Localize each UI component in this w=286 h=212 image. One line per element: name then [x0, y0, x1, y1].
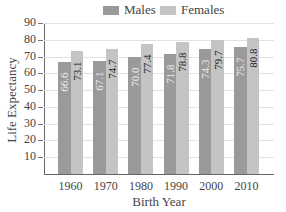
y-tick — [38, 90, 43, 91]
legend-label-females: Females — [181, 2, 224, 18]
males-swatch — [103, 6, 119, 15]
bar-females-1980: 77.4 — [141, 44, 154, 174]
y-tick — [38, 23, 43, 24]
y-tick — [38, 40, 43, 41]
bar-value-label: 75.7 — [234, 57, 246, 76]
y-tick-label: 80 — [14, 32, 36, 47]
bar-males-1990: 71.8 — [164, 54, 177, 174]
bar-males-1980: 70.0 — [128, 57, 141, 174]
gridline — [44, 40, 274, 41]
bar-females-1970: 74.7 — [106, 49, 119, 174]
x-tick-label: 2010 — [229, 179, 265, 194]
bar-value-label: 78.8 — [176, 52, 188, 71]
bar-value-label: 73.1 — [71, 62, 83, 81]
y-axis — [44, 23, 45, 174]
x-axis — [44, 174, 274, 175]
x-tick-label: 2000 — [193, 179, 229, 194]
y-tick — [38, 107, 43, 108]
bar-males-1970: 67.1 — [93, 61, 106, 174]
y-tick — [38, 73, 43, 74]
y-tick-label: 40 — [14, 99, 36, 114]
bar-value-label: 67.1 — [93, 72, 105, 91]
bar-males-2010: 75.7 — [234, 47, 247, 174]
bar-females-2000: 79.7 — [211, 40, 224, 174]
bar-value-label: 80.8 — [247, 49, 259, 68]
y-tick-label: 70 — [14, 49, 36, 64]
bar-females-1990: 78.8 — [176, 42, 189, 174]
x-tick-label: 1960 — [53, 179, 89, 194]
x-tick-label: 1990 — [158, 179, 194, 194]
legend: Males Females — [0, 3, 286, 17]
bar-value-label: 79.7 — [212, 51, 224, 70]
y-tick — [38, 124, 43, 125]
y-tick-label: 90 — [14, 15, 36, 30]
y-tick-label: 10 — [14, 149, 36, 164]
y-tick — [38, 57, 43, 58]
bar-value-label: 77.4 — [141, 55, 153, 74]
x-axis-title: Birth Year — [44, 194, 274, 210]
x-tick-label: 1980 — [123, 179, 159, 194]
legend-label-males: Males — [124, 2, 156, 18]
bar-value-label: 74.3 — [199, 60, 211, 79]
y-tick-label: 50 — [14, 82, 36, 97]
y-tick-label: 30 — [14, 116, 36, 131]
females-swatch — [160, 6, 176, 15]
legend-item-females: Females — [160, 3, 224, 17]
bar-males-2000: 74.3 — [199, 49, 212, 174]
bar-males-1960: 66.6 — [58, 62, 71, 174]
legend-item-males: Males — [103, 3, 156, 17]
bar-value-label: 74.7 — [106, 59, 118, 78]
x-tick-label: 1970 — [88, 179, 124, 194]
y-tick-label: 20 — [14, 132, 36, 147]
gridline — [44, 23, 274, 24]
bar-value-label: 66.6 — [58, 73, 70, 92]
y-tick — [38, 140, 43, 141]
bar-females-2010: 80.8 — [247, 38, 260, 174]
bar-value-label: 70.0 — [129, 67, 141, 86]
plot-area: 10203040506070809066.673.167.174.770.077… — [44, 23, 274, 174]
bar-females-1960: 73.1 — [71, 51, 84, 174]
bar-value-label: 71.8 — [164, 64, 176, 83]
y-tick — [38, 157, 43, 158]
y-tick-label: 60 — [14, 65, 36, 80]
